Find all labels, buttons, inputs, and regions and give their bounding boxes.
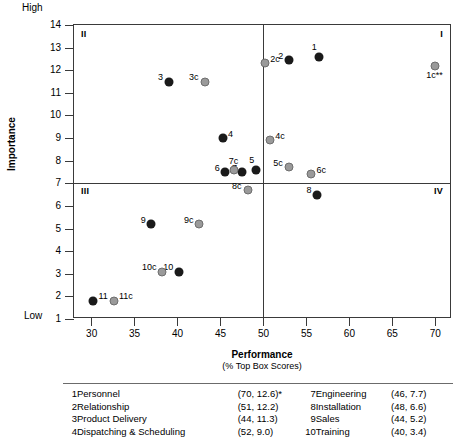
data-point-1 xyxy=(314,52,323,61)
x-axis-tick-label: 30 xyxy=(86,328,97,339)
plot-area: II I III IV 1234567891011121314303540455… xyxy=(73,24,451,318)
y-axis-tick: 14 xyxy=(65,25,74,26)
x-axis-tick: 30 xyxy=(91,317,92,326)
y-axis-tick: 1 xyxy=(65,319,74,320)
data-point-label-3: 3 xyxy=(158,73,163,82)
data-point-10 xyxy=(174,267,183,276)
x-axis-tick-label: 65 xyxy=(387,328,398,339)
data-point-11 xyxy=(88,296,97,305)
data-point-label-9c: 9c xyxy=(184,216,194,225)
y-axis-tick-label: 5 xyxy=(55,222,61,235)
data-point-2c xyxy=(260,59,269,68)
legend-value-left: (52, 9.0) xyxy=(238,426,300,439)
y-axis-tick-label: 1 xyxy=(55,312,61,325)
legend-value-right: (46, 7.7) xyxy=(391,388,453,401)
legend-number-right: 7 xyxy=(300,388,316,401)
legend-value-right: (40, 3.4) xyxy=(391,426,453,439)
y-axis-low-label: Low xyxy=(24,310,42,321)
y-axis-tick-label: 13 xyxy=(50,41,61,54)
quadrant-label-iii: III xyxy=(81,186,89,196)
data-point-label-1: 1 xyxy=(312,43,317,52)
y-axis-tick: 2 xyxy=(65,296,74,297)
x-axis-tick-label: 55 xyxy=(301,328,312,339)
legend-table: 1Personnel(70, 12.6)*7Engineering(46, 7.… xyxy=(63,388,453,438)
y-axis-tick: 8 xyxy=(65,161,74,162)
x-axis-tick: 45 xyxy=(220,317,221,326)
legend-row: 4Dispatching & Scheduling(52, 9.0)10Trai… xyxy=(63,426,453,439)
legend-divider xyxy=(63,383,453,384)
y-axis-tick: 3 xyxy=(65,274,74,275)
y-axis-tick-label: 7 xyxy=(55,176,61,189)
data-point-3c xyxy=(200,77,209,86)
data-point-7c xyxy=(229,165,238,174)
x-axis-title: Performance xyxy=(73,349,451,360)
x-axis-tick-label: 40 xyxy=(172,328,183,339)
legend-number-left: 4 xyxy=(63,426,77,439)
y-axis-tick-label: 6 xyxy=(55,199,61,212)
legend-row: 3Product Delivery(44, 11.3)9Sales(44, 5.… xyxy=(63,413,453,426)
legend-value-left: (51, 12.2) xyxy=(238,401,300,414)
legend-name-right: Sales xyxy=(316,413,391,426)
y-axis-tick: 9 xyxy=(65,138,74,139)
y-axis-tick: 12 xyxy=(65,70,74,71)
y-axis-tick: 6 xyxy=(65,206,74,207)
legend-value-right: (48, 6.6) xyxy=(391,401,453,414)
y-axis-tick: 13 xyxy=(65,48,74,49)
data-point-label-8: 8 xyxy=(307,186,312,195)
x-axis-tick-label: 35 xyxy=(129,328,140,339)
legend-name-left: Relationship xyxy=(77,401,238,414)
data-point-label-1c: 1c** xyxy=(426,71,443,80)
y-axis-title: Importance xyxy=(6,117,17,171)
x-axis-tick: 50 xyxy=(263,317,264,326)
data-point-label-3c: 3c xyxy=(189,73,199,82)
y-axis-tick-label: 3 xyxy=(55,267,61,280)
y-axis-tick: 7 xyxy=(65,183,74,184)
legend-name-right: Installation xyxy=(316,401,391,414)
quadrant-label-ii: II xyxy=(81,29,86,39)
x-axis-tick: 60 xyxy=(349,317,350,326)
importance-performance-chart: High Low Importance II I III IV 12345678… xyxy=(0,0,460,447)
data-point-9c xyxy=(195,220,204,229)
legend-number-left: 1 xyxy=(63,388,77,401)
legend-name-right: Engineering xyxy=(316,388,391,401)
x-axis-tick-label: 45 xyxy=(215,328,226,339)
y-axis-high-label: High xyxy=(22,2,43,13)
data-point-8c xyxy=(243,186,252,195)
y-axis-tick-label: 10 xyxy=(50,108,61,121)
legend-row: 2Relationship(51, 12.2)8Installation(48,… xyxy=(63,401,453,414)
data-point-label-9: 9 xyxy=(141,216,146,225)
y-axis-tick-label: 8 xyxy=(55,154,61,167)
data-point-label-8c: 8c xyxy=(232,182,242,191)
data-point-label-10c: 10c xyxy=(142,263,157,272)
y-axis-tick-label: 11 xyxy=(51,86,61,99)
legend-number-left: 2 xyxy=(63,401,77,414)
data-point-label-6c: 6c xyxy=(317,166,327,175)
y-axis-tick: 10 xyxy=(65,115,74,116)
y-axis-tick-label: 12 xyxy=(50,63,61,76)
y-axis-tick: 4 xyxy=(65,251,74,252)
y-axis-tick-label: 14 xyxy=(50,18,61,31)
data-point-8 xyxy=(313,190,322,199)
data-point-4c xyxy=(265,136,274,145)
data-point-11c xyxy=(109,296,118,305)
legend-number-right: 8 xyxy=(300,401,316,414)
y-axis-tick: 5 xyxy=(65,229,74,230)
legend-name-left: Personnel xyxy=(77,388,238,401)
quadrant-label-iv: IV xyxy=(434,186,443,196)
legend-number-left: 3 xyxy=(63,413,77,426)
data-point-7 xyxy=(238,168,247,177)
x-axis-tick-label: 60 xyxy=(344,328,355,339)
data-point-9 xyxy=(147,220,156,229)
x-axis-tick-label: 50 xyxy=(258,328,269,339)
data-point-5 xyxy=(252,165,261,174)
data-point-5c xyxy=(284,163,293,172)
data-point-label-6: 6 xyxy=(215,164,220,173)
horizontal-reference-line xyxy=(74,183,450,184)
data-point-2 xyxy=(284,56,293,65)
data-point-4 xyxy=(218,134,227,143)
data-point-label-5: 5 xyxy=(249,156,254,165)
vertical-reference-line xyxy=(263,25,264,317)
legend-value-right: (44, 5.2) xyxy=(391,413,453,426)
data-point-1c xyxy=(430,61,439,70)
quadrant-label-i: I xyxy=(440,29,443,39)
